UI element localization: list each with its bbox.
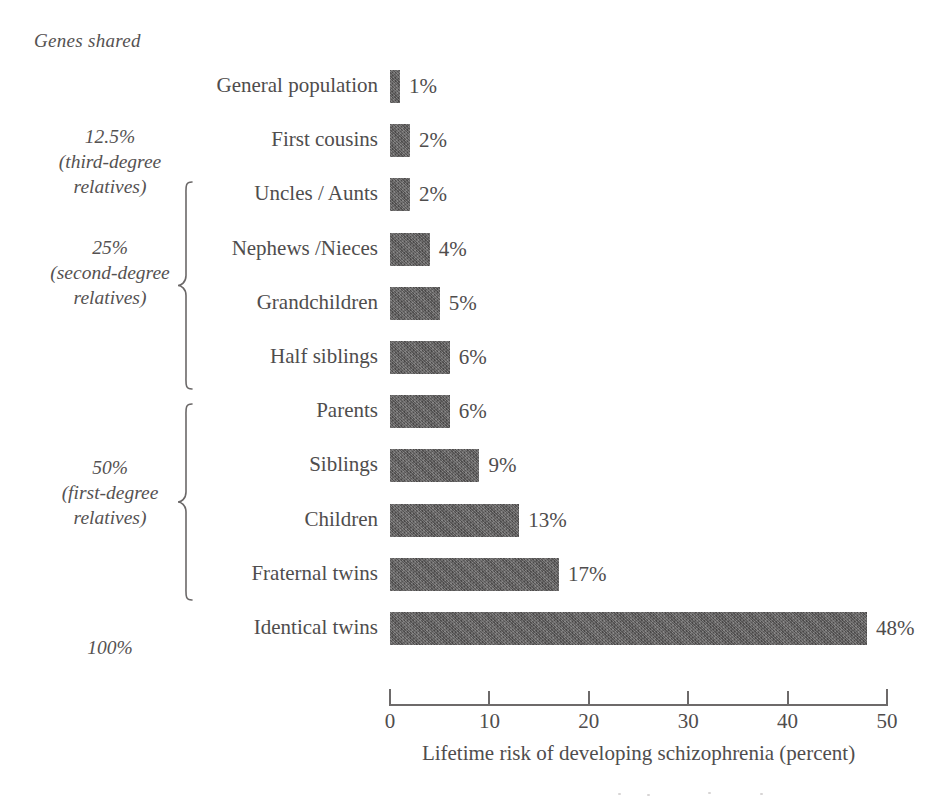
x-axis-tick [687, 691, 689, 705]
bar [390, 558, 559, 591]
scan-speckle [618, 793, 621, 795]
genes-shared-line: 100% [87, 637, 133, 658]
x-axis-tick-label: 50 [877, 709, 898, 734]
x-axis-tick-label: 20 [578, 709, 599, 734]
category-label: Children [305, 507, 379, 532]
category-label: Siblings [309, 452, 378, 477]
bar-value-label: 6% [459, 341, 487, 374]
genes-shared-line: relatives) [74, 176, 147, 197]
bar-value-label: 9% [488, 449, 516, 482]
bar [390, 395, 450, 428]
x-axis-line [389, 704, 888, 706]
bar-value-label: 4% [439, 233, 467, 266]
bar [390, 341, 450, 374]
bar [390, 449, 479, 482]
bar-value-label: 2% [419, 178, 447, 211]
x-axis-left-cap [389, 689, 391, 706]
category-label: Half siblings [270, 344, 378, 369]
genes-shared-line: 50% [92, 457, 128, 478]
category-label: General population [216, 73, 378, 98]
bar-value-label: 2% [419, 124, 447, 157]
genes-shared-line: (third-degree [59, 151, 162, 172]
bar [390, 124, 410, 157]
scan-speckle [760, 793, 763, 795]
genes-shared-line: (first-degree [62, 482, 159, 503]
group-brace [176, 403, 194, 601]
x-axis-tick [488, 691, 490, 705]
category-label: Grandchildren [257, 290, 378, 315]
genes-shared-heading: Genes shared [34, 30, 141, 52]
bar-value-label: 5% [449, 287, 477, 320]
scan-speckle [708, 792, 711, 794]
genes-shared-line: relatives) [74, 507, 147, 528]
bar [390, 233, 430, 266]
bar-value-label: 13% [528, 504, 567, 537]
category-label: Parents [316, 398, 378, 423]
bar [390, 178, 410, 211]
bar [390, 70, 400, 103]
x-axis-tick-label: 0 [385, 709, 396, 734]
x-axis-tick [588, 691, 590, 705]
x-axis-tick [787, 691, 789, 705]
bar [390, 504, 519, 537]
genes-shared-group-label: 100% [0, 635, 220, 660]
bar-value-label: 1% [409, 70, 437, 103]
category-label: Nephews /Nieces [232, 236, 378, 261]
bar [390, 612, 867, 645]
genes-shared-line: 25% [92, 237, 128, 258]
bar-value-label: 17% [568, 558, 607, 591]
scan-speckle [647, 794, 650, 796]
bar-value-label: 48% [876, 612, 915, 645]
bar-value-label: 6% [459, 395, 487, 428]
x-axis-tick-label: 30 [678, 709, 699, 734]
category-label: Fraternal twins [251, 561, 378, 586]
x-axis-title: Lifetime risk of developing schizophreni… [390, 741, 887, 766]
genes-shared-line: 12.5% [85, 126, 135, 147]
genes-shared-line: (second-degree [50, 262, 169, 283]
x-axis-tick-label: 10 [479, 709, 500, 734]
category-label: Identical twins [254, 615, 378, 640]
category-label: Uncles / Aunts [254, 181, 378, 206]
genes-shared-line: relatives) [74, 287, 147, 308]
x-axis-right-cap [886, 689, 888, 706]
category-label: First cousins [271, 127, 378, 152]
group-brace [176, 181, 194, 390]
schizophrenia-risk-bar-chart: Genes shared 12.5%(third-degreerelatives… [0, 0, 943, 801]
bar [390, 287, 440, 320]
plot-area: 1%2%2%4%5%6%6%9%13%17%48% [390, 62, 887, 689]
x-axis-tick-label: 40 [777, 709, 798, 734]
